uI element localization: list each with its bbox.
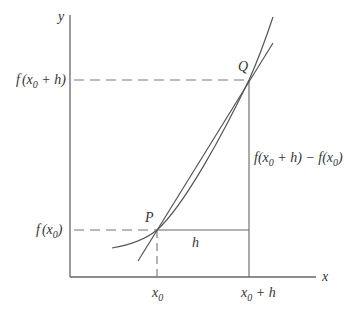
- point-q-label: Q: [238, 59, 248, 74]
- y-tick-fx0: f(x0): [36, 222, 63, 240]
- rise-label: f(x0 + h) − f(x0): [254, 150, 343, 168]
- h-label: h: [192, 235, 199, 250]
- y-tick-fx0h: f(x0 + h): [16, 72, 66, 90]
- point-p-label: P: [144, 210, 154, 225]
- x-axis-label: x: [321, 269, 329, 284]
- y-axis-label: y: [56, 9, 65, 24]
- x-tick-x0: x0: [151, 285, 163, 303]
- x-tick-x0h: x0 + h: [240, 285, 276, 303]
- derivative-secant-diagram: y x P Q f(x0 + h) f(x0) x0 x0 + h h f(x0…: [0, 0, 360, 316]
